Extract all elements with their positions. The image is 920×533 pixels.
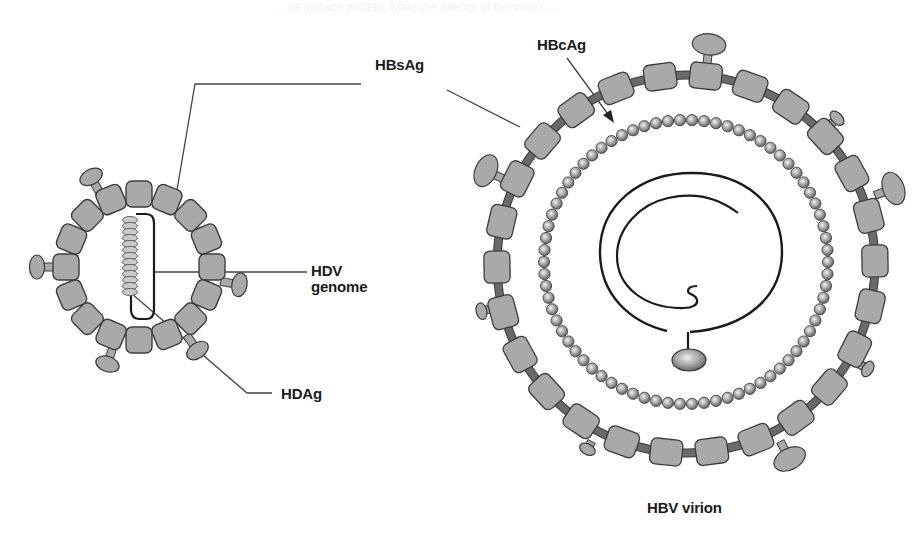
hbcag-core-bead [686,115,697,126]
label-hbcag: HBcAg [537,37,586,53]
hbcag-core-bead [556,326,567,337]
hbcag-core-bead [765,371,776,382]
hbcag-core-bead [587,363,598,374]
hbcag-core-bead [616,130,627,141]
hbcag-core-bead [822,244,833,255]
hbcag-core-bead [556,187,567,198]
hbcag-core-bead [820,280,831,291]
hbsag-surface-block [602,424,641,459]
label-hdv-genome-line1: HDV [311,263,342,279]
hbcag-core-bead [804,187,815,198]
label-hdv-genome-line2: genome [311,279,367,295]
hbcag-core-bead [627,125,638,136]
hbcag-core-bead [722,392,733,403]
hbcag-core-bead [698,116,709,127]
surface-knob [29,255,56,279]
hbcag-core-bead [686,398,697,409]
hbcag-core-bead [791,167,802,178]
hbcag-core-bead [616,383,627,394]
hbv-virion [469,32,909,476]
hbcag-core-bead [650,395,661,406]
hdv-particle [29,165,249,375]
hbsag-surface-block [126,181,152,207]
label-hbv-virion: HBV virion [647,500,722,516]
hbcag-core-bead [804,326,815,337]
hbcag-core-bead [755,135,766,146]
surface-knob [578,438,600,458]
hbcag-core-bead [744,383,755,394]
label-hdag: HDAg [281,386,322,402]
hbsag-surface-block [649,437,684,466]
hbsag-surface-block [731,69,770,104]
hbcag-core-bead [596,371,607,382]
hbsag-leader-hdv [177,84,361,190]
hbsag-surface-block [854,288,886,325]
hbcag-core-bead [744,130,755,141]
hbcag-core-bead [814,209,825,220]
hbv-dna-inner-strand [617,196,738,308]
hbcag-core-bead [539,268,550,279]
hbcag-core-bead [698,397,709,408]
hbcag-core-bead [650,118,661,129]
hbcag-core-bead [783,355,794,366]
hbcag-core-bead [674,398,685,409]
hbcag-core-bead [662,397,673,408]
hbcag-core-bead [818,221,829,232]
hdag-bead [123,288,138,295]
hbcag-core-bead [783,158,794,169]
hbcag-core-bead [547,304,558,315]
hbcag-core-bead [814,304,825,315]
hbcag-core-bead [578,355,589,366]
hbcag-core-bead [774,150,785,161]
label-hbsag: HBsAg [375,57,424,73]
hbcag-core-bead [596,142,607,153]
hbcag-core-bead [547,209,558,220]
hbcag-core-bead [539,244,550,255]
hbcag-arrowhead [603,110,614,123]
hbcag-core-bead [551,315,562,326]
hbcag-core-bead [810,198,821,209]
hdv-hbv-virion-diagram: ... its surface protein, while the inter… [0,0,920,533]
hbsag-surface-block [484,251,511,283]
hbcag-core-bead [570,167,581,178]
hbcag-core-bead [798,177,809,188]
hbcag-core-bead [551,198,562,209]
hbcag-core-bead [578,158,589,169]
hbsag-surface-block [596,70,635,106]
hbcag-core-bead [563,336,574,347]
surface-knob [690,32,727,66]
hbcag-core-bead [606,377,617,388]
hbcag-core-bead [587,150,598,161]
hbsag-surface-block [487,293,520,331]
hbcag-core-bead [710,118,721,129]
hbcag-core-bead [543,221,554,232]
hbsag-leader-hbv [447,90,520,127]
bleed-through-text: ... its surface protein, while the inter… [275,0,556,14]
hbcag-core-bead [543,292,554,303]
hbcag-core-bead [606,135,617,146]
hbcag-core-bead [810,315,821,326]
hbcag-core-bead [639,121,650,132]
hbsag-surface-block [694,436,729,466]
hbcag-core-bead [822,256,833,267]
hbcag-core-bead [733,125,744,136]
hbcag-core-bead [570,346,581,357]
hbcag-core-bead [733,388,744,399]
hbcag-core-bead [818,292,829,303]
diagram-canvas [0,0,920,533]
hbsag-surface-block [862,245,889,277]
hbcag-core-bead [639,392,650,403]
hbcag-core-bead [540,232,551,243]
hbcag-core-bead [627,388,638,399]
hbcag-core-bead [755,377,766,388]
hbsag-surface-block [643,62,678,92]
hbsag-surface-block [852,197,885,235]
hbcag-core-bead [563,177,574,188]
hbcag-core-bead [722,121,733,132]
hbcag-core-bead [765,142,776,153]
hbcag-core-bead [774,363,785,374]
hbcag-core-bead [798,336,809,347]
hbcag-core-bead [540,280,551,291]
hbsag-surface-block [199,254,225,280]
hbcag-core-bead [791,346,802,357]
